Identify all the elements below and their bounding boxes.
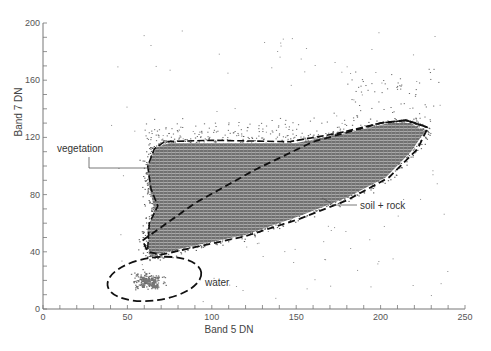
water-label: water: [204, 277, 230, 288]
soil-rock-label: soil + rock: [360, 200, 406, 211]
y-tick-label: 0: [35, 304, 40, 314]
y-tick-label: 200: [25, 18, 40, 28]
x-tick-label: 150: [289, 312, 304, 322]
x-axis: 050100150200250: [40, 305, 472, 322]
y-tick-label: 80: [30, 190, 40, 200]
y-tick-label: 40: [30, 247, 40, 257]
y-axis-title: Band 7 DN: [13, 88, 24, 137]
scatter-chart: 050100150200250 04080120160200 Band 5 DN…: [0, 0, 491, 351]
dense-point-cloud: [148, 123, 425, 255]
x-tick-label: 250: [457, 312, 472, 322]
annotation-water: water: [204, 277, 230, 288]
annotation-vegetation: vegetation: [57, 143, 150, 168]
y-tick-label: 160: [25, 75, 40, 85]
vegetation-label: vegetation: [57, 143, 103, 154]
x-tick-label: 50: [122, 312, 132, 322]
y-axis: 04080120160200: [25, 18, 47, 314]
vegetation-leader-line: [89, 157, 150, 168]
x-tick-label: 100: [204, 312, 219, 322]
x-tick-label: 200: [373, 312, 388, 322]
y-tick-label: 120: [25, 132, 40, 142]
x-tick-label: 0: [40, 312, 45, 322]
x-axis-title: Band 5 DN: [205, 324, 254, 335]
